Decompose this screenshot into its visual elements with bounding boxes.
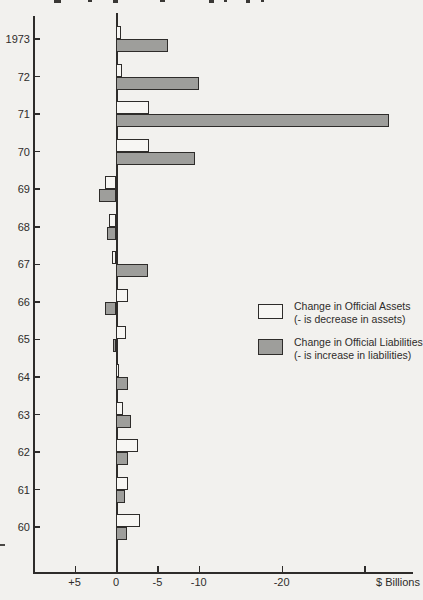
legend-assets-subtext: (- is decrease in assets) xyxy=(294,313,405,326)
legend-assets-label: Change in Official Assets xyxy=(294,300,411,313)
assets-bar xyxy=(109,214,116,227)
x-tick-label: +5 xyxy=(58,576,92,589)
assets-bar xyxy=(116,402,123,415)
liabilities-bar xyxy=(116,452,128,465)
assets-bar xyxy=(116,101,149,114)
year-label: 62 xyxy=(0,445,30,459)
year-tick xyxy=(33,226,40,228)
year-label: 66 xyxy=(0,295,30,309)
x-tick xyxy=(116,566,118,572)
year-tick xyxy=(33,188,40,190)
liabilities-bar xyxy=(116,264,148,277)
year-label: 67 xyxy=(0,257,30,271)
x-tick xyxy=(199,566,201,572)
legend-liabilities-subtext: (- is increase in liabilities) xyxy=(294,349,411,362)
legend-liabilities-label: Change in Official Liabilities xyxy=(294,336,423,349)
x-tick-label: -20 xyxy=(265,576,299,589)
year-tick xyxy=(33,451,40,453)
year-tick xyxy=(33,376,40,378)
x-tick-label: -5 xyxy=(140,576,174,589)
x-axis-line xyxy=(33,572,413,574)
year-tick xyxy=(33,38,40,40)
liabilities-bar xyxy=(113,339,116,352)
liabilities-bar xyxy=(116,527,127,540)
liabilities-bar xyxy=(116,377,128,390)
year-label: 61 xyxy=(0,483,30,497)
scanned-bar-chart-page: +50-5-10-2019737271706968676665646362616… xyxy=(0,0,423,600)
assets-bar xyxy=(105,176,116,189)
assets-bar xyxy=(116,26,121,39)
assets-bar xyxy=(116,364,119,377)
year-tick xyxy=(33,489,40,491)
year-tick xyxy=(33,151,40,153)
assets-bar xyxy=(112,251,116,264)
assets-bar xyxy=(116,439,138,452)
assets-bar xyxy=(116,139,149,152)
x-axis-unit-label: $ Billions xyxy=(370,576,420,589)
year-tick xyxy=(33,113,40,115)
year-tick xyxy=(33,414,40,416)
year-tick xyxy=(33,526,40,528)
year-label: 71 xyxy=(0,107,30,121)
liabilities-bar xyxy=(116,152,195,165)
year-label: 64 xyxy=(0,370,30,384)
liabilities-bar xyxy=(116,77,199,90)
assets-bar xyxy=(116,289,128,302)
x-tick xyxy=(364,566,366,572)
assets-bar xyxy=(116,64,122,77)
x-tick-label: -10 xyxy=(182,576,216,589)
liabilities-bar xyxy=(116,490,125,503)
year-tick xyxy=(33,301,40,303)
year-label: 72 xyxy=(0,70,30,84)
legend-assets-swatch xyxy=(258,304,283,319)
liabilities-bar xyxy=(116,114,389,127)
year-label: 69 xyxy=(0,182,30,196)
liabilities-bar xyxy=(105,302,116,315)
x-tick xyxy=(157,566,159,572)
year-label: 68 xyxy=(0,220,30,234)
year-label: 60 xyxy=(0,520,30,534)
year-label: 1973 xyxy=(0,32,30,46)
assets-bar xyxy=(116,514,140,527)
scan-artifact-mark xyxy=(0,544,5,546)
assets-bar xyxy=(116,326,126,339)
assets-bar xyxy=(116,477,128,490)
year-tick xyxy=(33,339,40,341)
x-tick xyxy=(282,566,284,572)
x-tick xyxy=(75,566,77,572)
year-label: 63 xyxy=(0,408,30,422)
liabilities-bar xyxy=(107,227,116,240)
year-tick xyxy=(33,76,40,78)
liabilities-bar xyxy=(116,39,168,52)
year-label: 70 xyxy=(0,145,30,159)
liabilities-bar xyxy=(99,189,116,202)
legend-liabilities-swatch xyxy=(258,339,283,355)
year-label: 65 xyxy=(0,332,30,346)
liabilities-bar xyxy=(116,415,131,428)
x-tick-label: 0 xyxy=(99,576,133,589)
year-tick xyxy=(33,264,40,266)
